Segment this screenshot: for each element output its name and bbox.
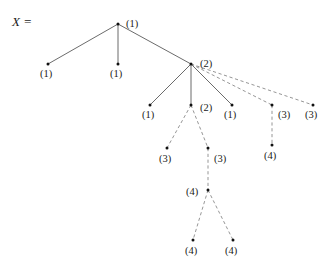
vertex-label: (1) [126,18,139,30]
tree-node-n9: (3) [159,147,172,166]
vertex-dot-icon [207,147,210,150]
vertex-dot-icon [117,23,120,26]
vertex-label: (3) [159,153,172,165]
vertex-dot-icon [232,239,235,242]
tree-node-n1: (1) [40,63,53,81]
vertex-label: (4) [185,245,198,257]
vertex-dot-icon [312,104,315,107]
vertex-dot-icon [231,104,234,107]
vertex-label: (4) [225,245,238,257]
tree-edge-dashed-n3-n8 [191,64,313,105]
tree-edge-solid-n3-n6 [191,64,232,105]
tree-node-n5: (2) [190,102,213,114]
tree-edge-dashed-n12-n13 [193,190,208,240]
tree-node-n10: (3) [207,147,227,166]
tree-edge-dashed-n5-n9 [167,105,191,148]
tree-node-n7: (3) [271,104,291,122]
edges-layer [48,24,313,240]
vertex-dot-icon [149,104,152,107]
tree-node-n14: (4) [225,239,238,258]
tree-edge-dashed-n3-n7 [191,64,272,105]
vertex-dot-icon [166,147,169,150]
vertex-dot-icon [207,189,210,192]
vertex-dot-icon [271,104,274,107]
tree-node-n6: (1) [224,104,237,122]
tree-edge-dashed-n12-n14 [208,190,233,240]
tree-node-n11: (4) [264,144,277,163]
nodes-layer: (1)(1)(1)(2)(1)(2)(1)(3)(3)(3)(3)(4)(4)(… [40,18,318,257]
tree-edge-solid-n3-n4 [150,64,191,105]
tree-node-n2: (1) [110,63,123,81]
vertex-dot-icon [117,63,120,66]
tree-node-n3: (2) [190,58,213,70]
vertex-label: (4) [186,186,199,198]
vertex-label: (3) [305,109,318,121]
tree-diagram-figure: (1)(1)(1)(2)(1)(2)(1)(3)(3)(3)(3)(4)(4)(… [0,0,335,274]
vertex-label: (4) [264,150,277,162]
vertex-dot-icon [190,63,193,66]
vertex-label: (3) [214,153,227,165]
vertex-label: (1) [142,109,155,121]
vertex-label: (2) [200,58,213,70]
tree-node-n4: (1) [142,104,155,122]
tree-diagram-canvas: (1)(1)(1)(2)(1)(2)(1)(3)(3)(3)(3)(4)(4)(… [0,0,335,274]
vertex-label: (3) [278,109,291,121]
tree-node-root: (1) [117,18,139,30]
vertex-label: (1) [40,68,53,80]
vertex-label: (2) [200,102,213,114]
equation-label: X = [11,14,32,29]
tree-edge-solid-root-n1 [48,24,118,64]
vertex-dot-icon [271,144,274,147]
vertex-label: (1) [110,68,123,80]
tree-node-n13: (4) [185,239,198,258]
tree-node-n8: (3) [305,104,318,122]
vertex-label: (1) [224,109,237,121]
vertex-dot-icon [190,104,193,107]
vertex-dot-icon [192,239,195,242]
tree-edge-solid-root-n3 [118,24,191,64]
vertex-dot-icon [47,63,50,66]
